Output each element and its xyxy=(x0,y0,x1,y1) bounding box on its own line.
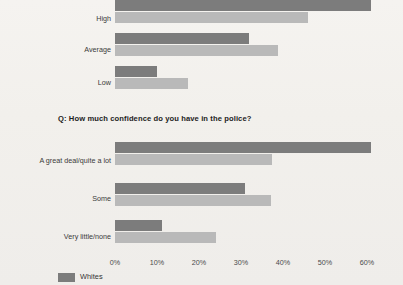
bar-average-whites xyxy=(115,33,249,44)
category-label-great-deal: A great deal/quite a lot xyxy=(1,156,111,165)
x-tick-50: 50% xyxy=(318,258,332,267)
category-label-low: Low xyxy=(1,78,111,87)
bar-high-secondary xyxy=(115,12,308,23)
question-title: Q: How much confidence do you have in th… xyxy=(58,114,252,123)
legend-swatch-whites xyxy=(58,273,75,282)
bar-very-little-whites xyxy=(115,220,162,231)
bar-high-whites xyxy=(115,0,371,11)
bar-great-deal-secondary xyxy=(115,154,272,165)
x-tick-10: 10% xyxy=(150,258,164,267)
legend-label-whites: Whites xyxy=(80,272,103,281)
x-tick-40: 40% xyxy=(276,258,290,267)
x-tick-0: 0% xyxy=(110,258,120,267)
x-axis: 0% 10% 20% 30% 40% 50% 60% xyxy=(0,258,403,270)
category-label-high: High xyxy=(1,14,111,23)
x-tick-30: 30% xyxy=(234,258,248,267)
x-tick-60: 60% xyxy=(360,258,374,267)
bar-very-little-secondary xyxy=(115,232,216,243)
bar-some-secondary xyxy=(115,195,271,206)
category-label-average: Average xyxy=(1,45,111,54)
bar-low-whites xyxy=(115,66,157,77)
x-tick-20: 20% xyxy=(192,258,206,267)
bar-low-secondary xyxy=(115,78,188,89)
bar-some-whites xyxy=(115,183,245,194)
bar-great-deal-whites xyxy=(115,142,371,153)
category-label-very-little: Very little/none xyxy=(1,232,111,241)
chart-figure: High Average Low Q: How much confidence … xyxy=(0,0,403,285)
category-label-some: Some xyxy=(1,194,111,203)
bar-average-secondary xyxy=(115,45,278,56)
